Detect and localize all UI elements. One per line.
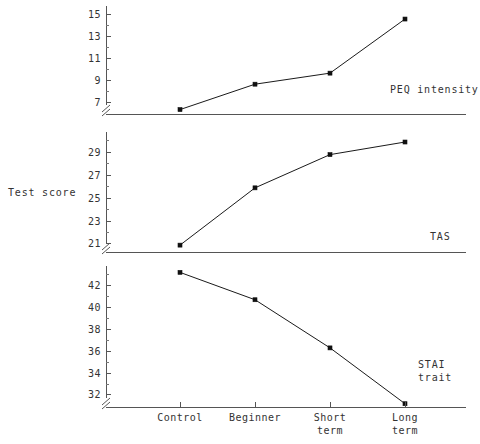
- y-tick-label: 38: [88, 324, 101, 335]
- data-point-marker: [328, 153, 332, 157]
- y-tick-label: 11: [88, 53, 101, 64]
- panel-label: TAS: [430, 231, 450, 242]
- y-tick-label: 7: [94, 97, 101, 108]
- x-category-label: Long: [392, 412, 418, 423]
- multi-panel-line-chart: 79111315PEQ intensity2123252729TAS323436…: [0, 0, 480, 444]
- y-tick-label: 36: [88, 346, 101, 357]
- panel-label: STAI: [418, 359, 445, 370]
- y-tick-label: 21: [88, 238, 101, 249]
- data-point-marker: [253, 186, 257, 190]
- series-line-tas: [180, 142, 405, 245]
- x-category-label: term: [317, 425, 343, 436]
- chart-panel-peq-intensity: 79111315PEQ intensity: [88, 6, 479, 116]
- chart-panel-tas: 2123252729TAS: [88, 132, 466, 254]
- data-point-marker: [178, 270, 182, 274]
- y-axis-title: Test score: [8, 187, 76, 198]
- y-tick-label: 32: [88, 389, 101, 400]
- y-tick-label: 9: [94, 75, 101, 86]
- y-tick-label: 42: [88, 280, 101, 291]
- data-point-marker: [253, 298, 257, 302]
- x-category-label: term: [392, 425, 418, 436]
- x-category-label: Beginner: [229, 412, 281, 423]
- panels-group: 79111315PEQ intensity2123252729TAS323436…: [88, 6, 479, 436]
- series-line-peq-intensity: [180, 19, 405, 110]
- data-point-marker: [403, 17, 407, 21]
- data-point-marker: [403, 140, 407, 144]
- y-tick-label: 40: [88, 302, 101, 313]
- y-tick-label: 34: [88, 368, 101, 379]
- y-tick-label: 25: [88, 193, 101, 204]
- y-tick-label: 29: [88, 147, 101, 158]
- data-point-marker: [178, 108, 182, 112]
- x-category-label: Control: [157, 412, 203, 423]
- y-tick-label: 27: [88, 170, 101, 181]
- panel-label: PEQ intensity: [390, 84, 479, 95]
- data-point-marker: [253, 82, 257, 86]
- y-tick-label: 15: [88, 9, 101, 20]
- y-tick-label: 23: [88, 216, 101, 227]
- x-category-label: Short: [314, 412, 347, 423]
- series-line-stai-trait: [180, 272, 405, 403]
- data-point-marker: [328, 71, 332, 75]
- panel-label: trait: [418, 372, 452, 383]
- data-point-marker: [178, 243, 182, 247]
- chart-figure: 79111315PEQ intensity2123252729TAS323436…: [0, 0, 480, 444]
- y-tick-label: 13: [88, 31, 101, 42]
- data-point-marker: [328, 346, 332, 350]
- chart-panel-stai-trait: 323436384042STAItrait: [88, 266, 466, 409]
